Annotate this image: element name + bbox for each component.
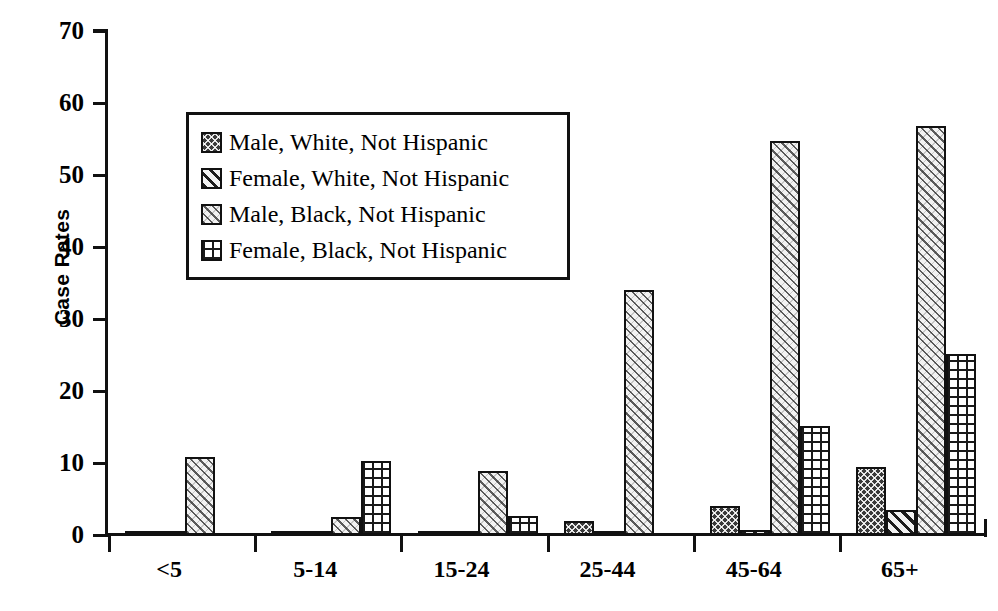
x-axis-tick <box>839 535 842 552</box>
bar <box>478 471 508 535</box>
x-axis-tick <box>547 535 550 552</box>
bar-chart: Case Rates 706050403020100 <55-1415-2425… <box>0 0 998 611</box>
y-axis-tick-label: 60 <box>0 89 84 117</box>
x-axis-tick-label: 65+ <box>881 556 919 583</box>
y-axis-tick <box>93 390 106 393</box>
y-axis-tick-label: 30 <box>0 305 84 333</box>
legend-swatch-female-white-icon <box>201 168 222 189</box>
bar <box>594 531 624 535</box>
legend-item-label: Female, Black, Not Hispanic <box>229 238 507 262</box>
bar <box>185 457 215 535</box>
y-axis-tick-label: 10 <box>0 449 84 477</box>
legend-item[interactable]: Female, Black, Not Hispanic <box>201 232 557 268</box>
legend-swatch-male-black-icon <box>201 204 222 225</box>
x-axis-tick-label: 15-24 <box>433 556 489 583</box>
bar <box>564 521 594 535</box>
legend-swatch-male-white-icon <box>201 132 222 153</box>
bar <box>155 531 185 535</box>
y-axis-tick-label: 40 <box>0 233 84 261</box>
bar <box>710 506 740 535</box>
y-axis-tick-label: 50 <box>0 161 84 189</box>
bar <box>856 467 886 535</box>
x-axis-tick-label: 5-14 <box>293 556 337 583</box>
legend-item[interactable]: Male, White, Not Hispanic <box>201 124 557 160</box>
bar <box>946 354 976 535</box>
y-axis-tick <box>93 174 106 177</box>
x-axis-tick-label: 45-64 <box>726 556 782 583</box>
legend: Male, White, Not Hispanic Female, White,… <box>186 112 570 280</box>
y-axis-tick <box>93 246 106 249</box>
y-axis-tick <box>93 30 106 33</box>
y-axis-tick-label: 0 <box>0 521 84 549</box>
bar <box>740 530 770 535</box>
bar <box>770 141 800 535</box>
y-axis-tick-label: 20 <box>0 377 84 405</box>
plot-area <box>108 31 985 535</box>
bar <box>916 126 946 535</box>
y-axis-tick <box>93 318 106 321</box>
legend-item-label: Female, White, Not Hispanic <box>229 166 509 190</box>
bar <box>125 531 155 535</box>
legend-item-label: Male, Black, Not Hispanic <box>229 202 486 226</box>
bar <box>301 531 331 535</box>
x-axis-tick-label: 25-44 <box>580 556 636 583</box>
y-axis-tick-label: 70 <box>0 17 84 45</box>
x-axis-tick <box>400 535 403 552</box>
y-axis-tick <box>93 534 106 537</box>
bar <box>448 531 478 535</box>
x-axis-tick <box>254 535 257 552</box>
legend-item[interactable]: Female, White, Not Hispanic <box>201 160 557 196</box>
x-axis-tick <box>108 535 111 552</box>
y-axis-tick <box>93 102 106 105</box>
y-axis-tick <box>93 462 106 465</box>
bar <box>624 290 654 535</box>
legend-item-label: Male, White, Not Hispanic <box>229 130 488 154</box>
bar <box>331 517 361 535</box>
bar <box>271 531 301 535</box>
x-axis-tick <box>693 535 696 552</box>
bar <box>508 516 538 535</box>
legend-swatch-female-black-icon <box>201 240 222 261</box>
legend-item[interactable]: Male, Black, Not Hispanic <box>201 196 557 232</box>
bar <box>886 510 916 535</box>
bar <box>800 426 830 535</box>
bar <box>418 531 448 535</box>
bar <box>361 461 391 535</box>
x-axis-tick-label: <5 <box>156 556 182 583</box>
